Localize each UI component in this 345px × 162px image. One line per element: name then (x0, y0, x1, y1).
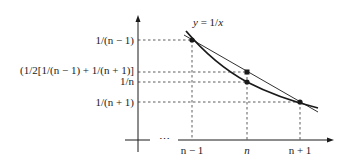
label-inv-n: 1/n (120, 75, 135, 87)
x-axis-arrow-icon (327, 138, 334, 143)
x-axis-ellipsis: ⋯ (159, 133, 170, 145)
point-chord-midpoint (245, 70, 250, 75)
y-axis-labels: 1/(n − 1) (1/2[1/(n − 1) + 1/(n + 1)] 1/… (20, 34, 134, 109)
point-n-minus-1 (189, 37, 194, 42)
x-axis-labels: n − 1 n n + 1 (181, 144, 312, 156)
horizontal-guides (138, 40, 300, 102)
label-half-sum: (1/2[1/(n − 1) + 1/(n + 1)] (20, 64, 134, 77)
curve-reciprocal (186, 31, 318, 108)
y-axis-arrow-icon (136, 15, 141, 22)
label-n: n (244, 144, 250, 156)
label-inv-n-minus-1: 1/(n − 1) (95, 34, 134, 47)
label-n-minus-1: n − 1 (181, 144, 204, 156)
y-axis (136, 15, 141, 152)
chord-line (184, 35, 318, 112)
label-n-plus-1: n + 1 (289, 144, 312, 156)
reciprocal-convexity-diagram: ⋯ y = 1/x 1/(n − 1) (1/2[1/(n − 1) + 1/(… (0, 0, 345, 162)
curve-label: y = 1/x (192, 16, 223, 28)
point-n (244, 79, 249, 84)
point-n-plus-1 (297, 99, 302, 104)
label-inv-n-plus-1: 1/(n + 1) (95, 96, 134, 109)
